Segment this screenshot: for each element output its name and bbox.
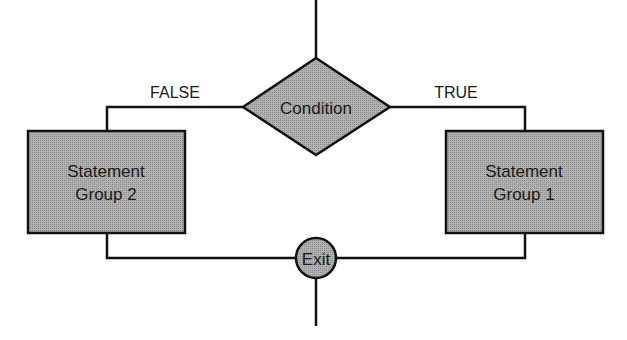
rectangle-shape xyxy=(28,131,185,233)
true-branch-line xyxy=(390,107,525,131)
statement-group-2-node: Statement Group 2 xyxy=(28,131,185,233)
false-branch-line xyxy=(107,107,243,131)
group2-to-exit-line xyxy=(107,233,296,258)
condition-label: Condition xyxy=(280,99,352,118)
group1-to-exit-line xyxy=(336,233,525,258)
condition-node: Condition xyxy=(243,58,390,155)
group1-line2: Group 1 xyxy=(493,185,554,204)
true-label: TRUE xyxy=(434,84,478,101)
group2-line1: Statement xyxy=(67,162,145,181)
false-label: FALSE xyxy=(150,84,200,101)
group2-line2: Group 2 xyxy=(75,185,136,204)
exit-label: Exit xyxy=(302,250,331,269)
group1-line1: Statement xyxy=(485,162,563,181)
exit-node: Exit xyxy=(296,238,336,278)
statement-group-1-node: Statement Group 1 xyxy=(446,131,603,233)
rectangle-shape xyxy=(446,131,603,233)
flowchart-canvas: Condition FALSE TRUE Statement Group 2 S… xyxy=(0,0,627,340)
